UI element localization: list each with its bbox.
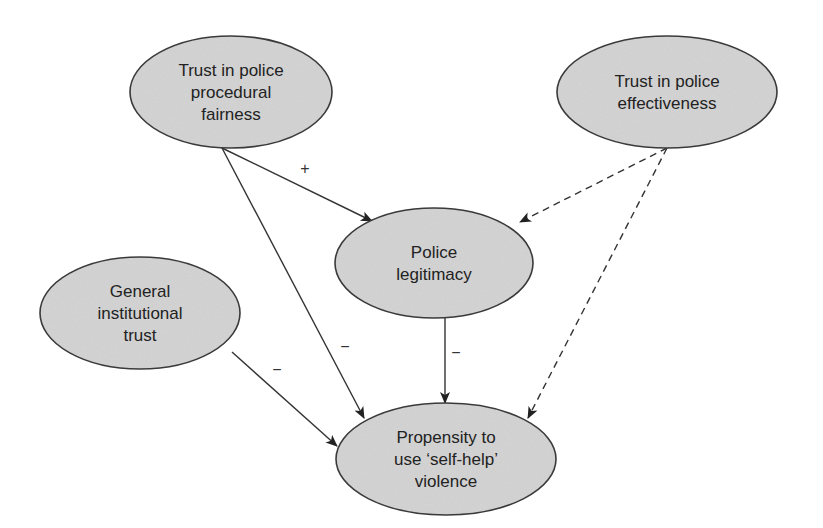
edge-institutional-to-violence: −	[232, 352, 337, 446]
node-label-line: legitimacy	[396, 265, 472, 284]
node-ellipse	[335, 208, 533, 318]
edge-procedural-to-legitimacy: +	[222, 148, 372, 221]
node-label-line: institutional	[97, 304, 182, 323]
solid-arrow	[222, 148, 372, 221]
edge-legitimacy-to-violence: −	[445, 318, 461, 403]
edge-sign-label: +	[300, 160, 309, 177]
edge-sign-label: −	[340, 338, 349, 355]
path-diagram: +−−− Trust in policeproceduralfairnessTr…	[0, 0, 823, 528]
node-label-line: effectiveness	[618, 94, 717, 113]
node-label-line: fairness	[201, 105, 261, 124]
node-violence: Propensity touse ‘self-help’violence	[336, 403, 556, 515]
node-institutional: Generalinstitutionaltrust	[40, 257, 240, 369]
node-legitimacy: Policelegitimacy	[335, 208, 533, 318]
edge-effectiveness-to-legitimacy	[520, 148, 667, 222]
node-ellipse	[557, 36, 777, 148]
node-label-line: Trust in police	[614, 72, 719, 91]
edge-sign-label: −	[272, 361, 281, 378]
node-label-line: Police	[411, 243, 457, 262]
nodes-layer: Trust in policeproceduralfairnessTrust i…	[40, 36, 777, 515]
dashed-arrow	[528, 148, 667, 418]
node-label-line: Propensity to	[396, 428, 495, 447]
node-label-line: violence	[415, 472, 477, 491]
solid-arrow	[232, 352, 337, 446]
dashed-arrow	[520, 148, 667, 222]
edge-sign-label: −	[451, 344, 460, 361]
node-label-line: procedural	[191, 83, 271, 102]
node-label-line: use ‘self-help’	[394, 450, 498, 469]
edge-effectiveness-to-violence	[528, 148, 667, 418]
node-label-line: Trust in police	[178, 61, 283, 80]
node-label-line: trust	[123, 326, 156, 345]
node-procedural: Trust in policeproceduralfairness	[130, 36, 332, 148]
node-effectiveness: Trust in policeeffectiveness	[557, 36, 777, 148]
node-label-line: General	[110, 282, 170, 301]
